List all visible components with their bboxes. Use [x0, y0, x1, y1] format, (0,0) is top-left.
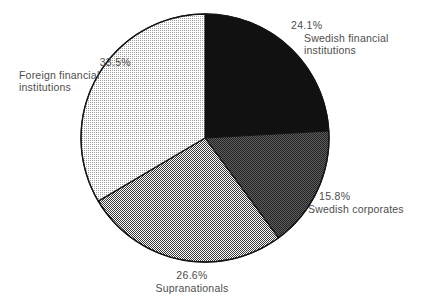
slice-label-swedish-corporates: 15.8% Swedish corporates: [308, 190, 404, 215]
slice-label-supranationals: 26.6% Supranationals: [137, 269, 247, 294]
slice-name-foreign-financial-institutions-line1: Foreign financial: [19, 69, 137, 82]
slice-name-swedish-corporates: Swedish corporates: [308, 203, 404, 216]
slice-name-foreign-financial-institutions-line2: institutions: [19, 81, 137, 94]
slice-label-swedish-financial-institutions: 24.1% Swedish financial institutions: [291, 19, 389, 57]
slice-name-swedish-financial-institutions-line1: Swedish financial: [304, 32, 389, 45]
slice-percent-swedish-financial-institutions: 24.1%: [291, 19, 389, 32]
pie-chart-figure: 24.1% Swedish financial institutions 15.…: [0, 0, 426, 307]
slice-percent-supranationals: 26.6%: [137, 269, 247, 282]
slice-percent-foreign-financial-institutions: 33.5%: [19, 56, 137, 69]
slice-percent-swedish-corporates: 15.8%: [319, 190, 404, 203]
slice-name-swedish-financial-institutions-line2: institutions: [304, 44, 389, 57]
slice-name-supranationals: Supranationals: [137, 282, 247, 295]
slice-label-foreign-financial-institutions: 33.5% Foreign financial institutions: [19, 56, 137, 94]
